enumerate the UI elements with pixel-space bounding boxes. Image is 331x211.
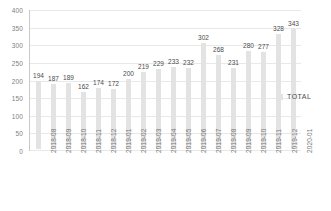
y-axis-tick-label: 0 xyxy=(19,148,23,155)
x-axis-tick-label: 2019-09 xyxy=(246,128,253,153)
bar-value-label: 280 xyxy=(243,42,254,49)
x-axis-slot: 2018-08 xyxy=(30,153,45,209)
x-axis-tick-label: 2018-11 xyxy=(95,129,102,153)
bar-value-label: 219 xyxy=(138,63,149,70)
bar-value-label: 200 xyxy=(123,70,134,77)
x-axis-slot: 2019-09 xyxy=(226,153,241,209)
x-axis-tick-label: 2019-03 xyxy=(155,128,162,153)
x-axis-tick-label: 2019-12 xyxy=(291,128,298,153)
x-axis-slot: 2019-07 xyxy=(196,153,211,209)
bar-value-label: 162 xyxy=(78,83,89,90)
bar-value-label: 229 xyxy=(153,60,164,67)
bar-value-label: 232 xyxy=(183,59,194,66)
x-axis-slot: 2019-05 xyxy=(166,153,181,209)
x-axis-tick-label: 2019-01 xyxy=(125,128,132,153)
bar-value-label: 268 xyxy=(213,46,224,53)
y-axis-tick-label: 50 xyxy=(15,130,23,137)
bar-value-label: 302 xyxy=(198,34,209,41)
x-axis-tick-label: 2020-01 xyxy=(306,128,313,153)
bar-value-label: 187 xyxy=(48,75,59,82)
bar-slot: 194 xyxy=(31,10,46,149)
x-axis-tick-label: 2019-10 xyxy=(261,128,268,153)
x-axis-tick-label: 2019-08 xyxy=(231,128,238,153)
x-axis-slot: 2019-04 xyxy=(151,153,166,209)
x-axis-tick-label: 2019-07 xyxy=(216,128,223,153)
bar-value-label: 231 xyxy=(228,59,239,66)
x-axis-slot: 2019-06 xyxy=(181,153,196,209)
y-axis-tick-label: 150 xyxy=(12,95,23,102)
x-axis-tick-label: 2019-05 xyxy=(185,128,192,153)
x-axis-slot: 2019-12 xyxy=(271,153,286,209)
x-axis-slot: 2019-01 xyxy=(105,153,120,209)
y-axis-tick-label: 350 xyxy=(12,24,23,31)
x-axis-slot: 2018-09 xyxy=(45,153,60,209)
x-axis-slot: 2019-10 xyxy=(241,153,256,209)
bar[interactable] xyxy=(36,81,41,149)
x-axis-tick-label: 2018-12 xyxy=(110,128,117,153)
x-axis-tick-label: 2018-09 xyxy=(65,128,72,153)
x-axis: 2018-082018-092018-102018-112018-122019-… xyxy=(30,153,301,209)
x-axis-tick-label: 2019-04 xyxy=(170,128,177,153)
x-axis-slot: 2018-10 xyxy=(60,153,75,209)
bar-value-label: 194 xyxy=(33,72,44,79)
bar-value-label: 328 xyxy=(273,25,284,32)
x-axis-tick-label: 2018-10 xyxy=(80,128,87,153)
y-axis-tick-label: 250 xyxy=(12,59,23,66)
y-axis-tick-label: 300 xyxy=(12,42,23,49)
bar-value-label: 172 xyxy=(108,80,119,87)
x-axis-slot: 2019-03 xyxy=(135,153,150,209)
chart-legend: TOTAL xyxy=(277,93,311,100)
bar-value-label: 174 xyxy=(93,79,104,86)
x-axis-tick-label: 2019-02 xyxy=(140,128,147,153)
y-axis-tick-label: 200 xyxy=(12,77,23,84)
x-axis-slot: 2019-08 xyxy=(211,153,226,209)
bar-value-label: 189 xyxy=(63,74,74,81)
x-axis-slot: 2019-02 xyxy=(120,153,135,209)
x-axis-slot: 2019-11 xyxy=(256,153,271,209)
bar-value-label: 343 xyxy=(288,20,299,27)
x-axis-slot: 2020-01 xyxy=(286,153,301,209)
legend-label-total: TOTAL xyxy=(287,93,311,100)
bar-value-label: 233 xyxy=(168,58,179,65)
x-axis-slot: 2018-12 xyxy=(90,153,105,209)
x-axis-tick-label: 2019-06 xyxy=(200,128,207,153)
legend-swatch-total xyxy=(277,94,283,100)
y-axis-tick-label: 100 xyxy=(12,112,23,119)
bar-value-label: 277 xyxy=(258,43,269,50)
x-axis-slot: 2018-11 xyxy=(75,153,90,209)
bar-chart: 400350300250200150100500 194187189162174… xyxy=(0,0,331,211)
y-axis-tick-label: 400 xyxy=(12,7,23,14)
x-axis-tick-label: 2019-11 xyxy=(276,129,283,153)
x-axis-tick-label: 2018-08 xyxy=(50,128,57,153)
y-axis: 400350300250200150100500 xyxy=(0,10,26,151)
